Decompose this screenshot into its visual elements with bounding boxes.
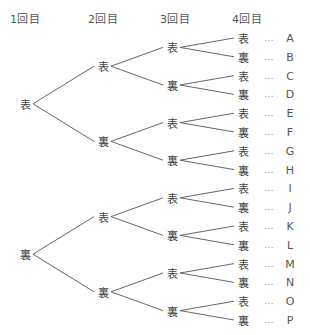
- ellipsis-separator: …: [265, 296, 274, 306]
- tree-node-level1-0: 表: [20, 96, 31, 112]
- outcome-label: H: [286, 163, 294, 176]
- outcome-label: D: [286, 88, 294, 101]
- tree-node-level4-8: 表: [238, 180, 249, 196]
- ellipsis-separator: …: [265, 71, 274, 81]
- tree-branches: [0, 0, 310, 335]
- outcome-label: P: [287, 314, 294, 327]
- tree-node-level4-15: 裏: [238, 312, 249, 328]
- outcome-label: O: [286, 295, 295, 308]
- ellipsis-separator: …: [265, 183, 274, 193]
- ellipsis-separator: …: [265, 259, 274, 269]
- outcome-label: K: [286, 220, 293, 233]
- tree-node-level4-13: 裏: [238, 274, 249, 290]
- tree-node-level4-9: 裏: [238, 199, 249, 215]
- tree-node-level3-2: 表: [167, 115, 178, 131]
- tree-node-level4-3: 裏: [238, 86, 249, 102]
- tree-node-level2-2: 表: [98, 209, 109, 225]
- tree-node-level4-1: 裏: [238, 49, 249, 65]
- ellipsis-separator: …: [265, 146, 274, 156]
- tree-node-level1-1: 裏: [20, 246, 31, 262]
- ellipsis-separator: …: [265, 108, 274, 118]
- outcome-label: G: [286, 144, 295, 157]
- outcome-label: J: [288, 201, 291, 214]
- tree-node-level4-11: 裏: [238, 237, 249, 253]
- tree-node-level4-0: 表: [238, 30, 249, 46]
- outcome-label: E: [287, 107, 294, 120]
- tree-node-level3-3: 裏: [167, 152, 178, 168]
- ellipsis-separator: …: [265, 33, 274, 43]
- tree-node-level3-0: 表: [167, 39, 178, 55]
- outcome-label: B: [286, 50, 294, 63]
- tree-node-level4-6: 表: [238, 143, 249, 159]
- ellipsis-separator: …: [265, 52, 274, 62]
- ellipsis-separator: …: [265, 165, 274, 175]
- outcome-label: M: [285, 257, 295, 270]
- tree-node-level3-1: 裏: [167, 77, 178, 93]
- tree-node-level4-2: 表: [238, 68, 249, 84]
- tree-node-level4-7: 裏: [238, 162, 249, 178]
- ellipsis-separator: …: [265, 202, 274, 212]
- outcome-label: L: [287, 238, 293, 251]
- tree-node-level4-10: 表: [238, 218, 249, 234]
- tree-node-level3-4: 表: [167, 190, 178, 206]
- ellipsis-separator: …: [265, 127, 274, 137]
- tree-node-level2-3: 裏: [98, 284, 109, 300]
- outcome-label: A: [286, 32, 294, 45]
- outcome-label: C: [286, 69, 294, 82]
- tree-node-level4-12: 表: [238, 256, 249, 272]
- outcome-label: I: [288, 182, 291, 195]
- tree-node-level4-5: 裏: [238, 124, 249, 140]
- outcome-label: N: [286, 276, 294, 289]
- tree-node-level3-7: 裏: [167, 303, 178, 319]
- tree-node-level4-14: 表: [238, 293, 249, 309]
- ellipsis-separator: …: [265, 221, 274, 231]
- coin-toss-tree-diagram: 1回目 2回目 3回目 4回目 表裏表裏表裏表裏表裏表裏表裏表裏表裏表裏表裏表裏…: [0, 0, 310, 335]
- ellipsis-separator: …: [265, 315, 274, 325]
- ellipsis-separator: …: [265, 277, 274, 287]
- tree-node-level2-0: 表: [98, 58, 109, 74]
- outcome-label: F: [287, 126, 293, 139]
- tree-node-level4-4: 表: [238, 105, 249, 121]
- tree-node-level3-5: 裏: [167, 227, 178, 243]
- tree-node-level3-6: 表: [167, 265, 178, 281]
- tree-node-level2-1: 裏: [98, 133, 109, 149]
- ellipsis-separator: …: [265, 89, 274, 99]
- ellipsis-separator: …: [265, 240, 274, 250]
